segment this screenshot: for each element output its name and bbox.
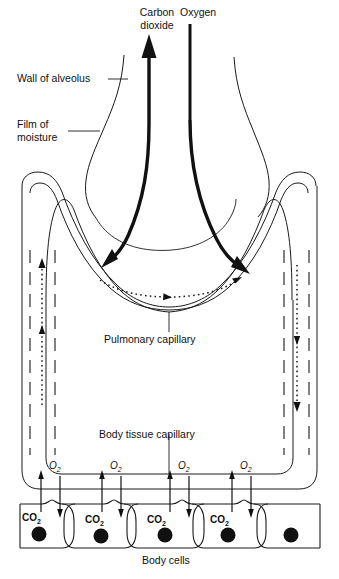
nucleus [32,527,47,542]
alveolus-wall-right [234,57,269,217]
body-tissue-capillary-inner-left [46,300,293,474]
leader-lines [68,79,169,474]
co2-arrow-up-icon [99,470,105,512]
o2-arrow-down-icon [118,476,124,518]
nucleus [221,528,236,543]
pulmonary-capillary-outer-wall [22,172,316,307]
nucleus [284,528,299,543]
blood-flow-left-arrow-up-dotted-icon [38,258,45,405]
exchange-arrows [38,470,254,518]
pulmonary-capillary-lumen-left [46,200,169,313]
body-tissue-capillary-outer-left [22,186,317,489]
nucleus [94,529,109,544]
o2-arrow-down-icon [57,476,63,518]
o2-arrow-down-icon [248,476,254,518]
alveolus-moisture-film [96,199,236,250]
capillary-dashed-wall-left [30,250,55,455]
co2-arrow-up-icon [229,470,235,512]
co2-arrow-up-icon [38,470,44,512]
co2-arrow-up-icon [167,470,173,512]
nucleus [158,528,173,543]
carbon-dioxide-flow-arrow [101,34,157,268]
gas-exchange-diagram [0,0,339,579]
oxygen-flow-arrow [190,24,250,274]
blood-flow-right-arrow-down-dotted-icon [293,265,300,412]
o2-arrow-down-icon [186,476,192,518]
